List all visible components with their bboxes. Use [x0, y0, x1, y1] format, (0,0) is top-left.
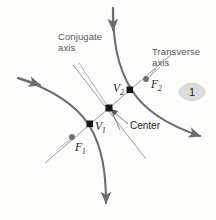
badge-label: 1	[189, 86, 195, 98]
hyperbola-branch-upper-right	[113, 8, 200, 136]
conjugate-axis-label: Conjugate axis	[58, 32, 102, 53]
center-leader-line-secondary	[112, 112, 120, 130]
vertex-2-label: V2	[113, 83, 124, 99]
hyperbola-branch-lower-left	[18, 78, 106, 203]
focus-1-point	[69, 134, 75, 140]
hyperbola-figure: Conjugate axis Transverse axis Center V1…	[0, 0, 216, 220]
focus-2-label: F2	[151, 79, 162, 95]
transverse-axis-label: Transverse axis	[152, 47, 200, 68]
center-label: Center	[130, 120, 160, 131]
vertex-1-label-letter: V	[95, 120, 102, 132]
vertex-2-point	[127, 87, 134, 94]
center-point	[106, 105, 113, 112]
figure-number-badge: 1	[179, 83, 205, 101]
vertex-1-label: V1	[95, 121, 106, 137]
hyperbola-branch-lower-left-arrow-left	[18, 78, 40, 85]
center-leader-line	[114, 112, 128, 124]
focus-1-label-subscript: 1	[82, 147, 86, 156]
focus-2-point	[143, 76, 149, 82]
vertex-2-label-letter: V	[113, 82, 120, 94]
vertex-2-label-subscript: 2	[120, 88, 124, 97]
focus-1-label: F1	[75, 142, 86, 158]
vertex-1-point	[87, 121, 94, 128]
focus-1-label-letter: F	[75, 141, 82, 153]
conjugate-axis-leader-line	[79, 63, 106, 104]
hyperbola-diagram-svg	[0, 0, 216, 220]
focus-1-leader-line	[58, 138, 72, 149]
vertex-1-label-subscript: 1	[102, 126, 106, 135]
focus-2-label-subscript: 2	[158, 84, 162, 93]
focus-2-label-letter: F	[151, 78, 158, 90]
